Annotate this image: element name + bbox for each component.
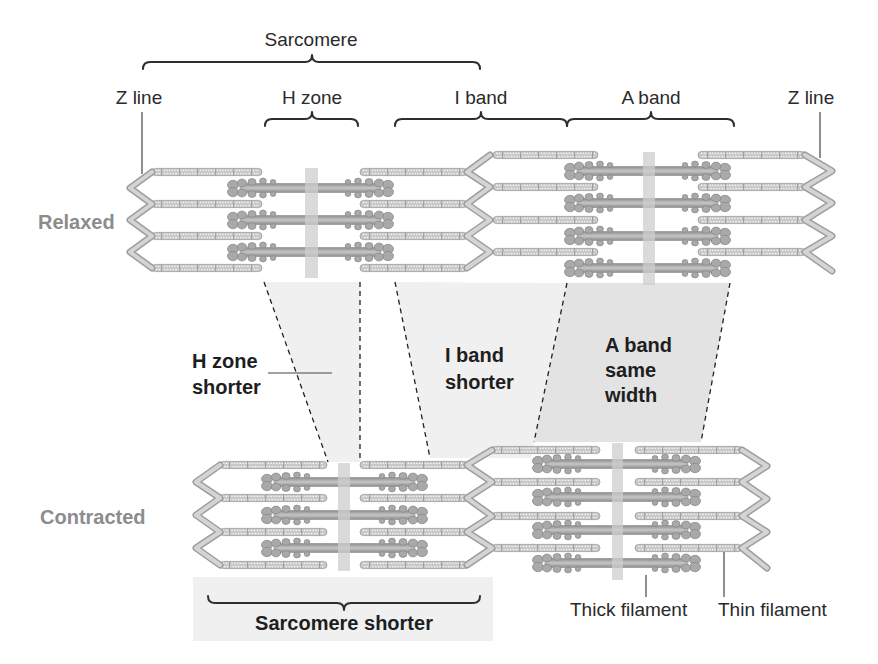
h-zone-brace — [265, 112, 358, 126]
myosin-head — [248, 255, 256, 262]
myosin-head — [662, 567, 669, 573]
relaxed-state-label: Relaxed — [38, 211, 115, 233]
myosin-head — [271, 473, 280, 481]
myosin-head — [565, 501, 572, 507]
thin-filament — [360, 494, 468, 501]
thin-filament — [152, 168, 262, 175]
sarcomere-contraction-diagram: Sarcomere Z line H zone I band A band Z … — [0, 0, 878, 664]
myosin-head — [652, 456, 658, 461]
myosin-head — [379, 552, 385, 557]
myosin-head — [365, 179, 373, 186]
myosin-head — [260, 178, 267, 184]
myosin-head — [565, 567, 572, 573]
myosin-head — [711, 204, 720, 212]
sarcomere — [220, 461, 468, 571]
myosin-head — [565, 468, 572, 474]
thin-filament — [698, 248, 805, 255]
sarcomere — [152, 168, 467, 278]
myosin-head — [692, 193, 699, 199]
myosin-head — [652, 567, 658, 572]
myosin-head — [355, 256, 362, 262]
myosin-head — [682, 163, 688, 168]
myosin-head — [542, 455, 551, 463]
myosin-head — [662, 520, 669, 526]
myosin-head — [690, 496, 701, 505]
myosin-head — [711, 194, 720, 202]
myosin-head — [597, 240, 604, 246]
myosin-head — [585, 162, 593, 169]
myosin-head — [408, 506, 417, 514]
a-band-same-line2: same — [605, 359, 656, 381]
myosin-head — [585, 174, 593, 181]
myosin-head — [237, 221, 246, 229]
thin-filament — [360, 561, 468, 568]
myosin-head — [692, 226, 699, 232]
thin-filament — [152, 200, 262, 207]
i-band-shorter-line1: I band — [445, 344, 504, 366]
myosin-head — [374, 179, 383, 187]
myosin-head — [399, 551, 407, 558]
thin-filament — [220, 561, 327, 568]
thin-filament — [152, 232, 262, 239]
myosin-head — [270, 180, 276, 185]
myosin-head — [228, 251, 239, 260]
z-line — [467, 155, 490, 268]
myosin-head — [345, 180, 351, 185]
myosin-head — [662, 454, 669, 460]
sarcomere-shorter-label: Sarcomere shorter — [255, 612, 433, 634]
myosin-head — [383, 219, 394, 228]
myosin-head — [237, 243, 246, 251]
myosin-head — [345, 256, 351, 261]
thin-filament — [152, 264, 262, 271]
myosin-head — [408, 549, 417, 557]
thick-filament-label: Thick filament — [570, 599, 688, 620]
myosin-head — [652, 534, 658, 539]
myosin-head — [553, 488, 561, 495]
a-band-same-line3: width — [604, 384, 657, 406]
thin-filament — [635, 544, 742, 551]
myosin-head — [542, 531, 551, 539]
myosin-head — [304, 552, 310, 557]
myosin-head — [702, 162, 710, 169]
z-line-right-label: Z line — [788, 87, 834, 108]
myosin-head — [607, 207, 613, 212]
myosin-head — [682, 228, 688, 233]
myosin-head — [585, 259, 593, 266]
myosin-head — [597, 193, 604, 199]
myosin-head — [585, 194, 593, 201]
myosin-head — [652, 489, 658, 494]
myosin-head — [702, 227, 710, 234]
myosin-head — [271, 506, 280, 514]
z-line — [130, 172, 152, 268]
myosin-head — [270, 244, 276, 249]
myosin-head — [574, 162, 583, 170]
myosin-head — [702, 206, 710, 213]
myosin-head — [575, 501, 581, 506]
myosin-head — [304, 486, 310, 491]
myosin-head — [271, 483, 280, 491]
myosin-head — [662, 534, 669, 540]
myosin-head — [374, 211, 383, 219]
h-zone-region — [264, 282, 360, 462]
myosin-head — [597, 226, 604, 232]
h-zone-shorter-line2: shorter — [192, 376, 261, 398]
z-line — [742, 450, 767, 568]
myosin-head — [389, 538, 396, 544]
myosin-head — [248, 191, 256, 198]
myosin-head — [652, 468, 658, 473]
myosin-head — [294, 538, 301, 544]
myosin-head — [565, 170, 576, 179]
m-line — [643, 152, 655, 285]
a-band-brace — [567, 112, 734, 126]
myosin-head — [271, 539, 280, 547]
myosin-head — [374, 189, 383, 197]
myosin-head — [597, 207, 604, 213]
myosin-head — [565, 487, 572, 493]
myosin-head — [565, 267, 576, 276]
myosin-head — [282, 551, 290, 558]
myosin-head — [597, 175, 604, 181]
myosin-head — [682, 207, 688, 212]
myosin-head — [389, 505, 396, 511]
thin-filament — [360, 232, 467, 239]
myosin-head — [607, 163, 613, 168]
